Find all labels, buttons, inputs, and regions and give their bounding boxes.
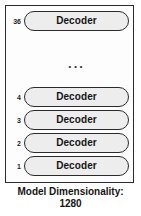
diagram-caption: Model Dimensionality: 1280 xyxy=(0,186,141,210)
decoder-layer-4: 4 Decoder xyxy=(6,87,135,107)
caption-line-1: Model Dimensionality: xyxy=(0,186,141,198)
layer-index-3: 3 xyxy=(9,117,21,124)
decoder-block-label: Decoder xyxy=(56,115,97,125)
decoder-stack-diagram: 36 Decoder ... 4 Decoder 3 Decoder 2 Dec… xyxy=(0,0,141,216)
decoder-block-1: Decoder xyxy=(24,156,129,176)
decoder-stack-frame: 36 Decoder ... 4 Decoder 3 Decoder 2 Dec… xyxy=(5,5,134,183)
layer-index-1: 1 xyxy=(9,163,21,170)
layer-ellipsis: ... xyxy=(24,54,129,72)
layer-index-4: 4 xyxy=(9,94,21,101)
decoder-block-label: Decoder xyxy=(56,161,97,171)
decoder-block-2: Decoder xyxy=(24,133,129,153)
decoder-block-3: Decoder xyxy=(24,110,129,130)
decoder-block-label: Decoder xyxy=(56,138,97,148)
decoder-layer-36: 36 Decoder xyxy=(6,11,135,31)
decoder-layer-3: 3 Decoder xyxy=(6,110,135,130)
decoder-block-36: Decoder xyxy=(24,11,129,31)
decoder-layer-2: 2 Decoder xyxy=(6,133,135,153)
layer-index-2: 2 xyxy=(9,140,21,147)
layer-index-36: 36 xyxy=(9,18,21,25)
decoder-block-label: Decoder xyxy=(56,16,97,26)
decoder-block-label: Decoder xyxy=(56,92,97,102)
decoder-block-4: Decoder xyxy=(24,87,129,107)
decoder-layer-1: 1 Decoder xyxy=(6,156,135,176)
caption-line-2: 1280 xyxy=(0,198,141,210)
